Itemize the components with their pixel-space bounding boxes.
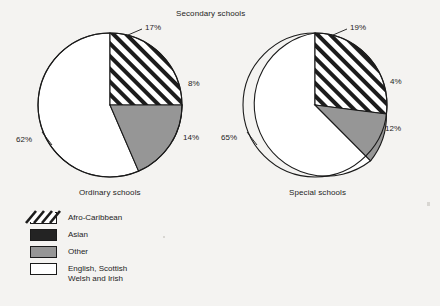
caption-ordinary-schools: Ordinary schools — [79, 188, 141, 197]
legend-label-english-scottish: English, Scottish — [68, 264, 127, 274]
leader-line-17 — [128, 29, 142, 35]
legend-label-afro-caribbean: Afro-Caribbean — [68, 212, 122, 223]
pct-label-left-other: 14% — [183, 133, 199, 142]
dark-swatch-icon — [30, 229, 57, 241]
legend-item-other: Other — [30, 246, 127, 260]
pct-label-left-asian: 8% — [188, 79, 200, 88]
pct-label-right-asian: 4% — [390, 77, 402, 86]
legend-label-other: Other — [68, 246, 88, 257]
gray-swatch-icon — [30, 246, 57, 258]
hatch-swatch-icon — [30, 212, 57, 224]
pct-label-right-other: 12% — [385, 124, 401, 133]
legend: Afro-Caribbean Asian Other English, Scot… — [30, 212, 127, 288]
pct-label-right-english: 65% — [221, 133, 237, 142]
pie-ordinary-schools — [38, 29, 182, 177]
pct-label-left-english: 62% — [16, 135, 32, 144]
legend-item-afro-caribbean: Afro-Caribbean — [30, 212, 127, 226]
leader-line-65 — [247, 132, 257, 145]
pie-special-schools — [243, 29, 387, 177]
legend-label-welsh-irish: Welsh and Irish — [68, 274, 127, 284]
legend-item-asian: Asian — [30, 229, 127, 243]
caption-special-schools: Special schools — [289, 188, 346, 197]
leader-line-19 — [333, 29, 347, 35]
pct-label-right-afro-caribbean: 19% — [350, 23, 366, 32]
scan-speck — [163, 236, 165, 238]
pct-label-left-afro-caribbean: 17% — [145, 23, 161, 32]
legend-label-asian: Asian — [68, 229, 88, 240]
white-swatch-icon — [30, 263, 57, 275]
legend-item-english-scottish-welsh-irish: English, Scottish Welsh and Irish — [30, 263, 127, 285]
scan-speck — [427, 202, 430, 206]
pie-chart-figure: Secondary schools — [0, 0, 440, 306]
